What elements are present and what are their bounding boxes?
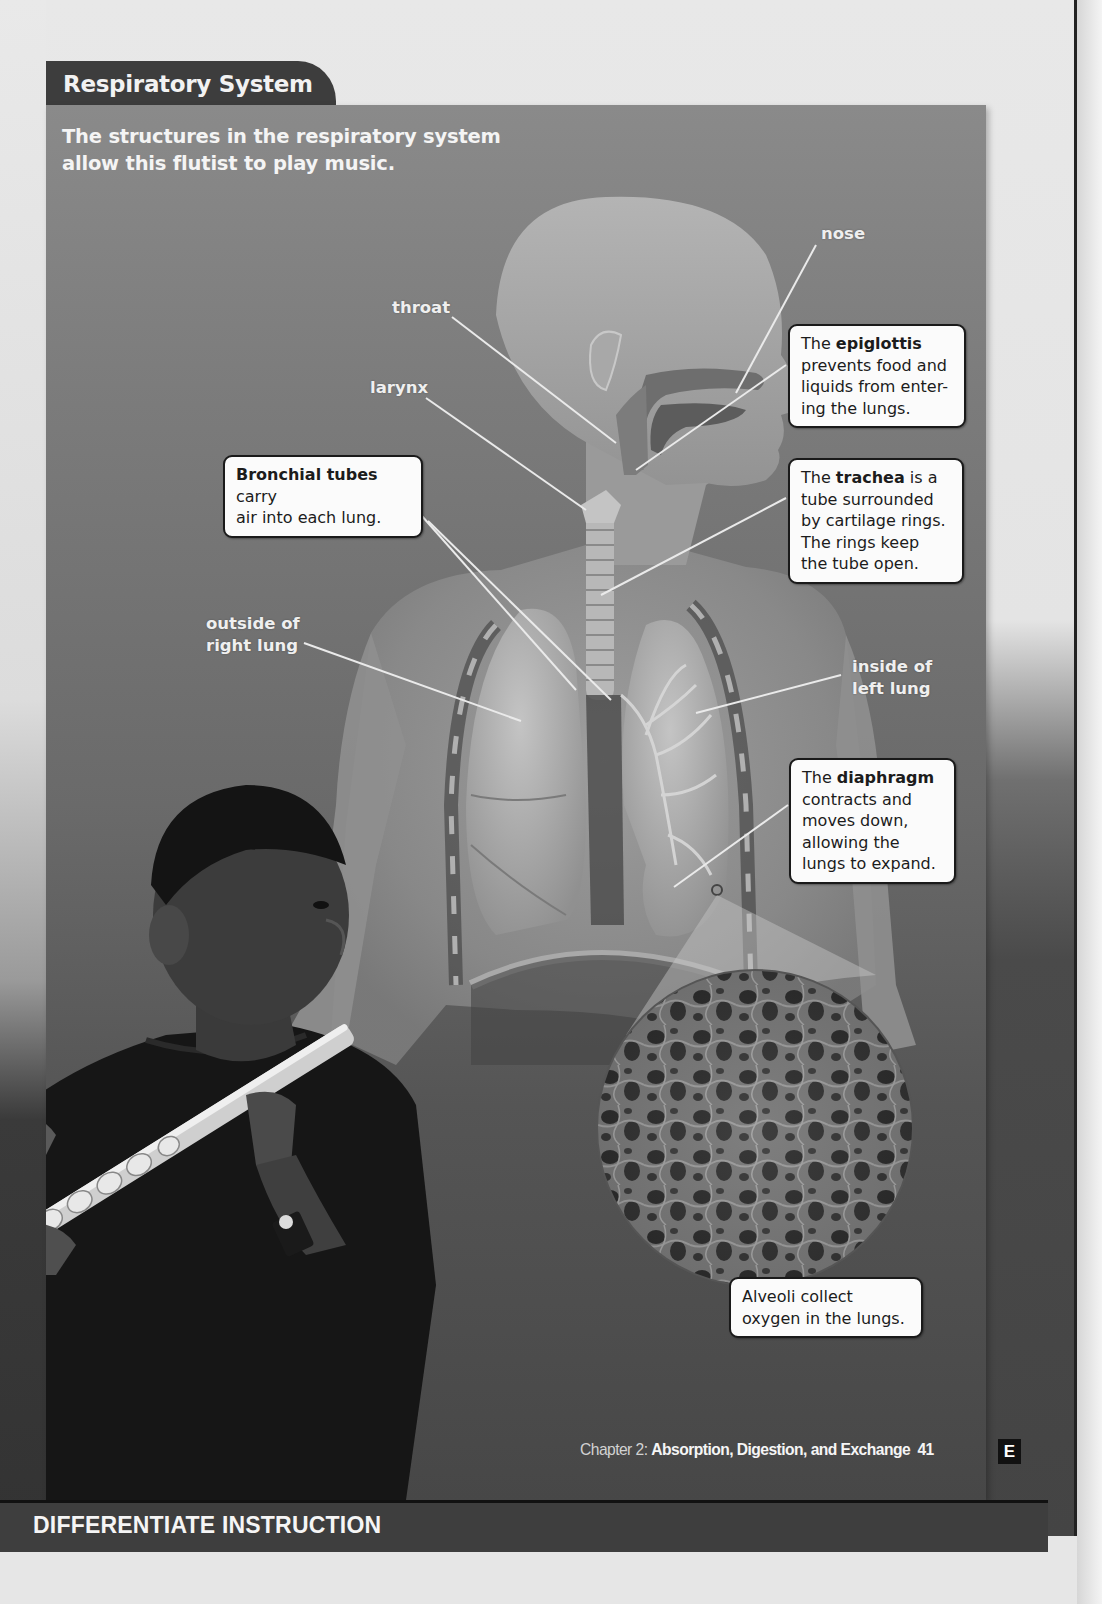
differentiate-instruction-band: DIFFERENTIATE INSTRUCTION bbox=[0, 1500, 1048, 1552]
page-left-margin bbox=[0, 0, 46, 1536]
chapter-title: Absorption, Digestion, and Exchange bbox=[651, 1440, 910, 1459]
band-title: DIFFERENTIATE INSTRUCTION bbox=[33, 1512, 381, 1539]
page-number: 41 bbox=[917, 1440, 933, 1459]
label-nose: nose bbox=[821, 223, 865, 245]
section-title-tab: Respiratory System bbox=[46, 61, 336, 105]
page-right-margin bbox=[1077, 0, 1102, 1604]
edition-badge: E bbox=[998, 1439, 1021, 1464]
label-outside-right-lung: outside of right lung bbox=[206, 613, 300, 657]
label-throat: throat bbox=[392, 297, 450, 319]
label-larynx: larynx bbox=[370, 377, 428, 399]
page-footer: Chapter 2: Absorption, Digestion, and Ex… bbox=[580, 1440, 934, 1460]
callout-trachea: The trachea is a tube surrounded by cart… bbox=[788, 458, 964, 584]
callout-diaphragm: The diaphragm contracts and moves down, … bbox=[789, 758, 956, 884]
respiratory-figure: The structures in the respiratory system… bbox=[46, 105, 986, 1500]
figure-caption: The structures in the respiratory system… bbox=[62, 123, 532, 177]
callout-epiglottis: The epiglottis prevents food and liquids… bbox=[788, 324, 966, 428]
callout-bronchial-tubes: Bronchial tubes carry air into each lung… bbox=[223, 455, 423, 538]
label-inside-left-lung: inside of left lung bbox=[852, 656, 932, 700]
section-title: Respiratory System bbox=[63, 71, 313, 97]
callout-alveoli: Alveoli collect oxygen in the lungs. bbox=[729, 1277, 923, 1338]
page-bottom-margin bbox=[0, 1552, 1077, 1604]
chapter-prefix: Chapter 2: bbox=[580, 1440, 651, 1459]
